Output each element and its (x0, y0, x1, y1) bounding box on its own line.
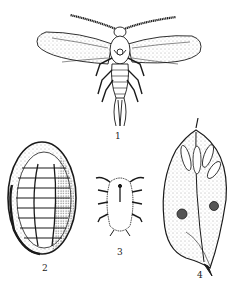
figure-1-winged-male (37, 15, 201, 126)
panel-label-1: 1 (115, 132, 121, 141)
figure-3-nymph (96, 178, 144, 237)
panel-label-4: 4 (197, 271, 203, 280)
figure-2-female-scale (8, 142, 76, 254)
panel-label-2: 2 (42, 264, 48, 273)
figure-4-infested-leaf (163, 118, 226, 276)
panel-label-3: 3 (117, 248, 123, 257)
